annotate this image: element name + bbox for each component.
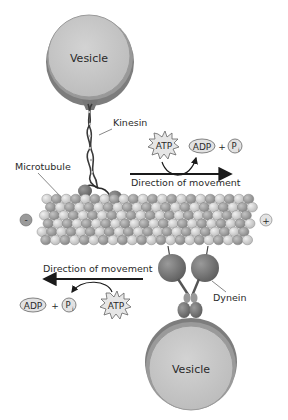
top-vesicle: Vesicle <box>46 15 134 106</box>
top-vesicle-label: Vesicle <box>70 52 108 65</box>
minus-end-marker: - <box>20 214 32 226</box>
svg-text:+: + <box>51 301 59 311</box>
svg-text:ADP: ADP <box>193 142 212 152</box>
kinesin-label: Kinesin <box>113 117 147 128</box>
microtubule-label: Microtubule <box>15 161 71 172</box>
dynein-motor <box>158 246 219 318</box>
bottom-vesicle: Vesicle <box>145 318 237 410</box>
bottom-atp-reaction: Direction of movement ATP ADP + P i <box>20 263 153 319</box>
svg-text:-: - <box>24 215 27 225</box>
svg-text:P: P <box>65 300 70 310</box>
plus-end-marker: + <box>260 214 272 226</box>
direction-label-bottom: Direction of movement <box>43 263 153 274</box>
dynein-head-left <box>158 254 186 282</box>
svg-text:+: + <box>262 216 270 226</box>
svg-text:ATP: ATP <box>156 141 173 151</box>
microtubule <box>37 194 257 245</box>
direction-label-top: Direction of movement <box>131 177 241 188</box>
dynein-label: Dynein <box>213 292 246 303</box>
svg-text:ADP: ADP <box>24 301 43 311</box>
motor-protein-diagram: Vesicle Kinesin Microtubule ATP ADP + P … <box>0 0 288 420</box>
svg-text:+: + <box>218 142 226 152</box>
svg-text:ATP: ATP <box>108 301 125 311</box>
kinesin-motor <box>78 100 122 204</box>
bottom-vesicle-label: Vesicle <box>172 363 210 376</box>
svg-text:P: P <box>231 141 236 151</box>
dynein-head-right <box>191 254 219 282</box>
top-atp-reaction: ATP ADP + P i Direction of movement <box>130 131 242 188</box>
